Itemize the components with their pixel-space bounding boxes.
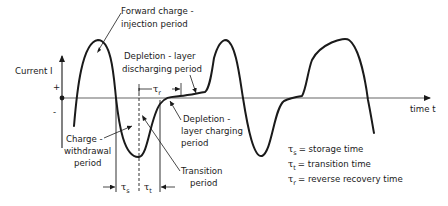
svg-text:withdrawal: withdrawal bbox=[64, 146, 111, 156]
legend: τs= storage time τt= transition time τr=… bbox=[288, 143, 403, 187]
reverse-recovery-diagram: Current I + - time t τr τs τt Forward ch… bbox=[0, 0, 448, 206]
tau-r-dimension: τr bbox=[139, 83, 180, 97]
svg-text:Forward charge -: Forward charge - bbox=[121, 6, 194, 16]
svg-text:discharging period: discharging period bbox=[122, 64, 202, 74]
legend-item-reverse-recovery: τr= reverse recovery time bbox=[288, 173, 403, 187]
legend-item-transition: τt= transition time bbox=[288, 158, 371, 172]
svg-text:Charge -: Charge - bbox=[66, 134, 103, 144]
svg-text:injection period: injection period bbox=[121, 19, 188, 29]
svg-text:Depletion -: Depletion - bbox=[183, 114, 230, 124]
annotation-depletion-charging: Depletion - layer charging period bbox=[170, 101, 243, 148]
svg-text:period: period bbox=[181, 138, 208, 148]
svg-text:Transition: Transition bbox=[180, 166, 223, 176]
svg-text:period: period bbox=[74, 158, 101, 168]
svg-text:period: period bbox=[190, 178, 217, 188]
tau-s-symbol: τs bbox=[121, 181, 130, 195]
origin-dot bbox=[60, 96, 65, 101]
annotation-depletion-discharging: Depletion - layer discharging period bbox=[122, 51, 202, 93]
plus-sign: + bbox=[53, 82, 60, 92]
annotation-forward-injection: Forward charge - injection period bbox=[97, 6, 194, 53]
minus-sign: - bbox=[53, 107, 56, 117]
y-axis-label: Current I bbox=[15, 66, 53, 76]
tau-r-symbol: τr bbox=[153, 83, 161, 97]
svg-text:Depletion - layer: Depletion - layer bbox=[124, 51, 196, 61]
legend-item-storage: τs= storage time bbox=[288, 143, 363, 157]
x-axis-label: time t bbox=[410, 104, 436, 114]
tau-t-symbol: τt bbox=[144, 181, 152, 195]
svg-text:layer charging: layer charging bbox=[181, 126, 243, 136]
